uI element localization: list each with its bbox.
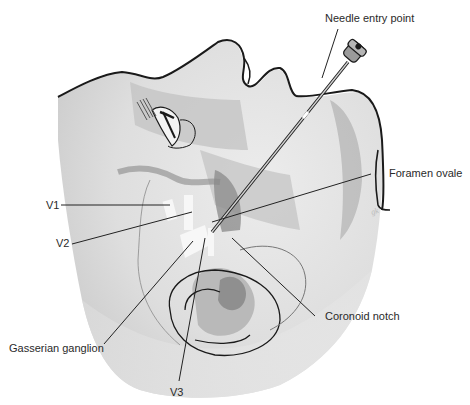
label-needle-entry-point: Needle entry point: [325, 13, 414, 24]
needle-hub: [340, 38, 368, 65]
label-v1: V1: [46, 200, 59, 211]
label-v3: V3: [170, 387, 183, 398]
illustration-canvas: gk Needle entry point Foramen ovale V1 V…: [0, 0, 470, 405]
label-foramen-ovale: Foramen ovale: [389, 168, 462, 179]
label-v2: V2: [56, 238, 69, 249]
label-gasserian-ganglion: Gasserian ganglion: [9, 343, 104, 354]
label-coronoid-notch: Coronoid notch: [325, 311, 400, 322]
